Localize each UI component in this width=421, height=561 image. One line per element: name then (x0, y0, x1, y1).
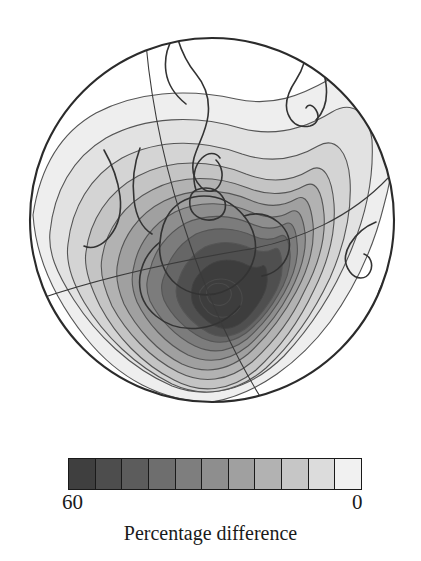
colorbar-cell (96, 459, 123, 489)
colorbar-tick-min: 0 (352, 492, 363, 513)
colorbar-cell (309, 459, 336, 489)
figure-root: 60 0 Percentage difference (0, 0, 421, 561)
legend: 60 0 Percentage difference (0, 430, 421, 561)
map-svg (0, 0, 421, 430)
colorbar-cell (335, 459, 361, 489)
colorbar (68, 458, 362, 490)
colorbar-cell (229, 459, 256, 489)
colorbar-cell (69, 459, 96, 489)
colorbar-cell (122, 459, 149, 489)
colorbar-tick-max: 60 (62, 492, 83, 513)
colorbar-cell (149, 459, 176, 489)
colorbar-cell (202, 459, 229, 489)
colorbar-caption: Percentage difference (0, 522, 421, 545)
colorbar-cell (255, 459, 282, 489)
colorbar-cell (282, 459, 309, 489)
polar-map (0, 0, 421, 430)
colorbar-cell (176, 459, 203, 489)
